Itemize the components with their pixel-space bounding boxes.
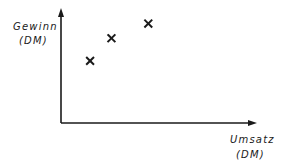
x-axis-label-line2: (DM): [236, 150, 265, 160]
x-marker-icon: [108, 35, 114, 41]
y-axis-label-line1: Gewinn: [13, 22, 58, 32]
x-marker-icon: [145, 20, 151, 26]
x-axis-arrow-icon: [248, 120, 257, 126]
y-axis-label-line2: (DM): [19, 36, 48, 46]
x-axis-label-line1: Umsatz: [230, 135, 275, 145]
y-axis-arrow-icon: [58, 8, 64, 17]
data-points: [87, 20, 152, 64]
x-marker-icon: [87, 58, 93, 64]
axes: [58, 8, 257, 126]
